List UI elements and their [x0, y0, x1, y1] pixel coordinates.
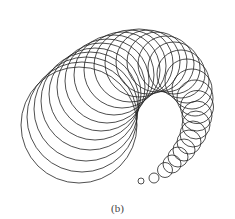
circle — [149, 173, 159, 183]
circle — [163, 155, 181, 173]
circle — [173, 139, 195, 161]
circle — [105, 29, 173, 97]
figure-caption: (b) — [0, 202, 235, 214]
circle — [177, 130, 201, 154]
circle-spiral-diagram — [0, 0, 235, 219]
circle — [127, 32, 187, 92]
circle — [116, 30, 180, 94]
circle — [138, 178, 144, 184]
circle — [148, 42, 200, 94]
